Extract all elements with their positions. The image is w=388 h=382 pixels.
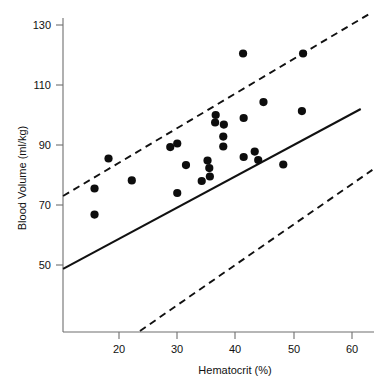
data-point — [166, 143, 174, 151]
data-point — [298, 107, 306, 115]
regression-line — [63, 109, 361, 269]
y-axis-title: Blood Volume (ml/kg) — [16, 126, 28, 231]
data-point — [259, 98, 267, 106]
data-point — [219, 142, 227, 150]
data-point — [104, 154, 112, 162]
chart-canvas: Blood Volume (ml/kg) 130 110 90 70 50 20… — [0, 0, 388, 382]
x-tick-label-60: 60 — [346, 343, 358, 355]
data-point — [90, 211, 98, 219]
data-point — [211, 118, 219, 126]
data-point — [299, 49, 307, 57]
x-axis-ticks: 20 30 40 50 60 — [113, 332, 358, 355]
data-point — [128, 176, 136, 184]
data-point — [182, 161, 190, 169]
data-point — [212, 111, 220, 119]
data-point — [251, 148, 259, 156]
data-point — [203, 157, 211, 165]
data-point — [206, 172, 214, 180]
data-point — [219, 133, 227, 141]
x-tick-label-20: 20 — [113, 343, 125, 355]
data-point — [254, 156, 262, 164]
data-point — [198, 177, 206, 185]
y-axis-title-group: Blood Volume (ml/kg) — [16, 126, 28, 231]
data-point — [240, 153, 248, 161]
x-tick-label-40: 40 — [229, 343, 241, 355]
y-tick-label-90: 90 — [39, 139, 51, 151]
y-tick-label-70: 70 — [39, 199, 51, 211]
data-point — [240, 114, 248, 122]
data-points-layer — [90, 49, 307, 218]
x-tick-label-50: 50 — [288, 343, 300, 355]
data-point — [279, 160, 287, 168]
x-axis-title: Hematocrit (%) — [198, 364, 271, 376]
data-point — [239, 49, 247, 57]
y-axis-ticks: 130 110 90 70 50 — [33, 19, 63, 271]
data-point — [173, 139, 181, 147]
data-point — [90, 184, 98, 192]
data-point — [220, 121, 228, 129]
y-tick-label-130: 130 — [33, 19, 51, 31]
data-point — [173, 189, 181, 197]
upper-limit-line — [63, 12, 372, 196]
y-tick-label-50: 50 — [39, 259, 51, 271]
data-point — [205, 164, 213, 172]
y-tick-label-110: 110 — [33, 79, 51, 91]
x-tick-label-30: 30 — [171, 343, 183, 355]
scatter-plot-figure: Blood Volume (ml/kg) 130 110 90 70 50 20… — [0, 0, 388, 382]
trend-lines-layer — [63, 12, 372, 331]
